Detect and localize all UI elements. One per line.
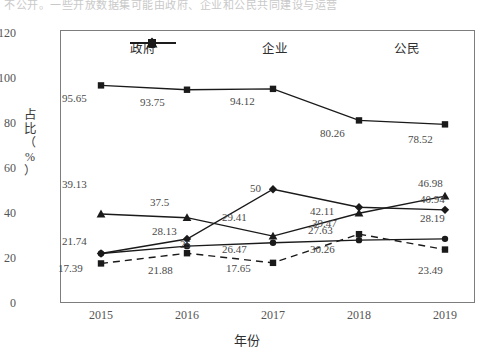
- data-point-marker: [356, 237, 362, 243]
- data-value-label: 80.26: [320, 127, 345, 139]
- data-point-marker: [442, 236, 448, 242]
- data-point-marker: [270, 86, 276, 92]
- data-value-label: 93.75: [140, 96, 165, 108]
- data-point-marker: [270, 260, 276, 266]
- data-point-marker: [98, 82, 104, 88]
- data-value-label: 27.63: [308, 224, 333, 236]
- data-value-label: 95.65: [62, 92, 87, 104]
- data-value-label: 50: [250, 182, 261, 194]
- data-point-marker: [98, 250, 104, 256]
- data-value-label: 26.47: [222, 243, 247, 255]
- data-value-label: 39.13: [62, 178, 87, 190]
- data-point-marker: [356, 117, 362, 123]
- data-value-label: 94.12: [230, 95, 255, 107]
- data-value-label: 17.65: [226, 262, 251, 274]
- data-value-label: 78.52: [408, 133, 433, 145]
- data-point-marker: [98, 260, 104, 266]
- data-value-label: 28.19: [420, 212, 445, 224]
- data-value-label: 25: [180, 238, 191, 250]
- data-point-marker: [184, 250, 190, 256]
- data-point-marker: [270, 240, 276, 246]
- data-value-label: 29.41: [222, 211, 247, 223]
- data-value-label: 17.39: [58, 262, 83, 274]
- data-point-marker: [184, 87, 190, 93]
- data-value-label: 21.88: [148, 264, 173, 276]
- data-point-marker: [355, 203, 363, 211]
- data-point-marker: [442, 246, 448, 252]
- data-value-label: 23.49: [418, 264, 443, 276]
- data-value-label: 28.13: [152, 225, 177, 237]
- data-value-label: 46.98: [418, 177, 443, 189]
- data-value-label: 42.11: [310, 205, 334, 217]
- data-point-marker: [269, 185, 277, 193]
- chart-figure: 不公开。一些开放数据集可能由政府、企业和公民共同建设与运营 占 比 （ % ） …: [0, 0, 494, 354]
- data-value-label: 30.26: [310, 243, 335, 255]
- data-value-label: 21.74: [62, 235, 87, 247]
- data-point-marker: [356, 231, 362, 237]
- data-value-label: 40.94: [420, 193, 445, 205]
- data-point-marker: [442, 121, 448, 127]
- data-value-label: 37.5: [150, 196, 169, 208]
